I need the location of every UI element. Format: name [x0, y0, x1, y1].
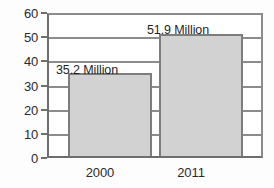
y-axis-label-50: 50	[0, 31, 38, 44]
data-label-2011: 51.9 Million	[118, 24, 238, 37]
bar-2011[interactable]	[159, 34, 243, 156]
x-axis-label-2000: 2000	[48, 166, 152, 179]
y-axis-label-60: 60	[0, 7, 38, 20]
y-axis-label-0: 0	[0, 152, 38, 165]
y-axis-label-20: 20	[0, 103, 38, 116]
y-axis-label-30: 30	[0, 79, 38, 92]
data-label-2000: 35.2 Million	[27, 64, 147, 77]
bar-chart: 60 50 40 30 20 10 0 35.2 Million 51.9 Mi…	[0, 0, 274, 188]
y-axis-label-10: 10	[0, 127, 38, 140]
x-axis-label-2011: 2011	[139, 166, 243, 179]
bar-2000[interactable]	[68, 73, 152, 156]
